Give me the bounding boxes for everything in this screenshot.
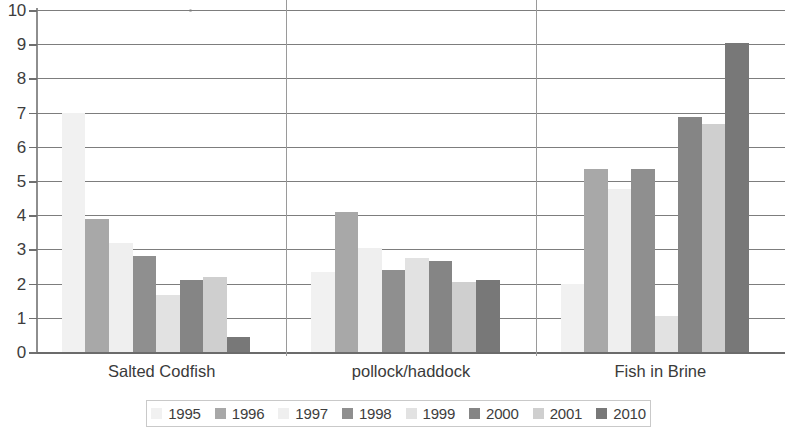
y-axis-tick-mark <box>29 215 37 217</box>
legend-label: 2010 <box>613 406 646 421</box>
y-axis-tick-label: 1 <box>17 309 26 326</box>
y-axis-tick-label: 4 <box>17 207 26 224</box>
bar-group-bars <box>561 0 749 352</box>
y-axis-tick-mark <box>29 113 37 115</box>
category-label: pollock/haddock <box>286 358 535 384</box>
bar-groups <box>37 0 785 352</box>
legend-label: 1996 <box>232 406 265 421</box>
bar[interactable] <box>382 270 406 352</box>
bar[interactable] <box>133 256 157 352</box>
legend-label: 2001 <box>550 406 583 421</box>
bar[interactable] <box>311 272 335 352</box>
y-axis-tick-label: 3 <box>17 241 26 258</box>
bar[interactable] <box>608 189 632 352</box>
bar[interactable] <box>702 124 726 352</box>
legend-label: 2000 <box>486 406 519 421</box>
legend-item[interactable]: 2010 <box>589 406 653 421</box>
bar[interactable] <box>405 258 429 352</box>
category-axis-labels: Salted Codfishpollock/haddockFish in Bri… <box>37 358 785 388</box>
bar[interactable] <box>227 337 251 352</box>
legend-swatch-icon <box>215 408 226 419</box>
y-axis-tick-mark <box>29 249 37 251</box>
bar-group-bars <box>311 0 499 352</box>
legend-swatch-icon <box>406 408 417 419</box>
bar[interactable] <box>631 169 655 352</box>
group-separator <box>286 0 287 356</box>
y-axis-tick-label: 5 <box>17 173 26 190</box>
bar-group-bars <box>62 0 250 352</box>
category-label: Fish in Brine <box>536 358 785 384</box>
bar[interactable] <box>156 295 180 352</box>
legend-swatch-icon <box>533 408 544 419</box>
y-axis-tick-label: 2 <box>17 275 26 292</box>
bar-chart: 012345678910 Salted Codfishpollock/haddo… <box>0 0 789 432</box>
y-axis-tick-label: 7 <box>17 104 26 121</box>
y-axis-tick-mark <box>29 78 37 80</box>
y-axis-tick-mark <box>29 284 37 286</box>
bar[interactable] <box>584 169 608 352</box>
legend-label: 1998 <box>359 406 392 421</box>
y-axis-tick-mark <box>29 147 37 149</box>
y-axis-tick-mark <box>29 352 37 354</box>
y-axis-tick-mark <box>29 181 37 183</box>
bar[interactable] <box>476 280 500 352</box>
bar[interactable] <box>429 261 453 352</box>
legend-swatch-icon <box>342 408 353 419</box>
legend-swatch-icon <box>596 408 607 419</box>
chart-legend: 19951996199719981999200020012010 <box>146 400 651 427</box>
y-axis-tick-labels: 012345678910 <box>0 0 26 356</box>
y-axis-tick-mark <box>29 318 37 320</box>
legend-item[interactable]: 1998 <box>335 406 399 421</box>
y-axis-tick-mark <box>29 44 37 46</box>
bar[interactable] <box>203 277 227 352</box>
legend-item[interactable]: 2000 <box>462 406 526 421</box>
legend-item[interactable]: 1997 <box>271 406 335 421</box>
y-axis-tick-mark <box>29 10 37 12</box>
axis-baseline <box>37 352 785 354</box>
y-axis-tick-label: 0 <box>17 344 26 361</box>
bar[interactable] <box>452 282 476 352</box>
bar[interactable] <box>655 316 679 352</box>
bar[interactable] <box>725 43 749 353</box>
bar[interactable] <box>678 117 702 352</box>
y-axis-tick-label: 6 <box>17 138 26 155</box>
bar-group <box>561 0 749 352</box>
bar[interactable] <box>561 284 585 352</box>
group-separator <box>536 0 537 356</box>
bar[interactable] <box>180 280 204 352</box>
legend-swatch-icon <box>469 408 480 419</box>
legend-item[interactable]: 1995 <box>144 406 208 421</box>
legend-label: 1997 <box>295 406 328 421</box>
legend-label: 1999 <box>423 406 456 421</box>
bar-group <box>62 0 250 352</box>
bar-group <box>311 0 499 352</box>
legend-item[interactable]: 1999 <box>399 406 463 421</box>
plot-area: 012345678910 <box>0 0 789 356</box>
legend-item[interactable]: 2001 <box>526 406 590 421</box>
y-axis-tick-label: 10 <box>8 2 26 19</box>
bar[interactable] <box>358 248 382 352</box>
y-axis-tick-label: 8 <box>17 70 26 87</box>
legend-swatch-icon <box>151 408 162 419</box>
category-label: Salted Codfish <box>37 358 286 384</box>
y-axis-tick-label: 9 <box>17 36 26 53</box>
bar[interactable] <box>335 212 359 352</box>
bar[interactable] <box>62 113 86 352</box>
bar[interactable] <box>85 219 109 352</box>
legend-label: 1995 <box>168 406 201 421</box>
legend-item[interactable]: 1996 <box>208 406 272 421</box>
legend-swatch-icon <box>278 408 289 419</box>
bar[interactable] <box>109 243 133 352</box>
